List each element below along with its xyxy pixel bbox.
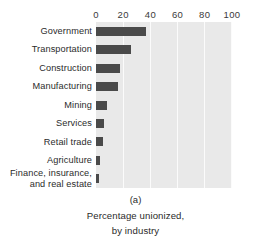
caption-line-1: Percentage unionized, <box>0 208 271 223</box>
bar <box>96 82 118 91</box>
figure-caption: (a) Percentage unionized, by industry <box>0 192 271 238</box>
y-category-label: Finance, insurance, and real estate <box>10 168 92 189</box>
x-tick-label: 40 <box>145 8 156 21</box>
bar <box>96 174 99 183</box>
plot-area <box>96 22 232 188</box>
gridline <box>231 22 232 188</box>
y-category-label: Services <box>56 118 92 129</box>
bar <box>96 45 131 54</box>
y-category-label: Retail trade <box>44 137 92 148</box>
bar <box>96 64 120 73</box>
x-tick-label: 80 <box>199 8 210 21</box>
bar <box>96 27 146 36</box>
y-axis-category-labels: GovernmentTransportationConstructionManu… <box>0 22 92 188</box>
x-tick-label: 20 <box>118 8 129 21</box>
x-tick-label: 0 <box>93 8 99 21</box>
bar <box>96 156 100 165</box>
caption-line-2: by industry <box>0 223 271 238</box>
x-tick-label: 100 <box>223 8 240 21</box>
gridline <box>177 22 178 188</box>
bar <box>96 101 107 110</box>
y-category-label: Mining <box>64 100 92 111</box>
bar <box>96 119 104 128</box>
gridline <box>204 22 205 188</box>
y-category-label: Transportation <box>32 44 92 55</box>
figure-panel: 020406080100 GovernmentTransportationCon… <box>0 0 271 250</box>
gridline <box>150 22 151 188</box>
y-category-label: Construction <box>39 63 92 74</box>
caption-index: (a) <box>0 192 271 208</box>
y-category-label: Agriculture <box>47 155 92 166</box>
x-axis-tick-labels: 020406080100 <box>96 8 232 21</box>
bar <box>96 137 103 146</box>
y-category-label: Government <box>40 26 92 37</box>
x-tick-label: 60 <box>172 8 183 21</box>
y-category-label: Manufacturing <box>32 81 92 92</box>
